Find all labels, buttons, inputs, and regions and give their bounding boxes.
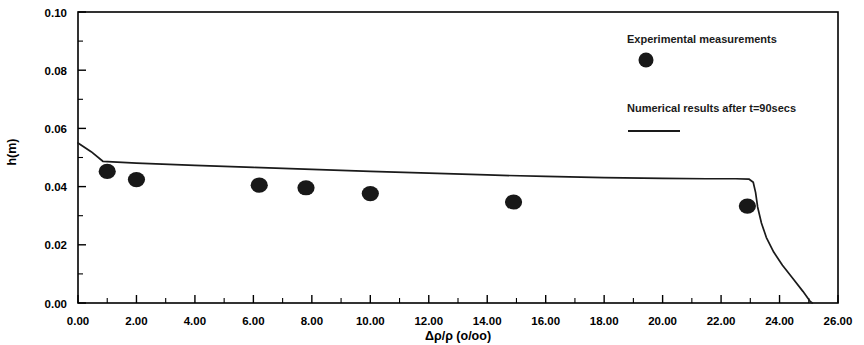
plot-frame — [78, 12, 838, 303]
y-axis-ticks — [78, 12, 86, 303]
data-point — [251, 178, 268, 193]
y-tick-label: 0.08 — [45, 65, 68, 77]
legend-label-experimental: Experimental measurements — [627, 33, 777, 45]
y-tick-label: 0.06 — [45, 123, 67, 135]
data-point — [99, 164, 116, 179]
x-tick-label: 4.00 — [184, 315, 206, 327]
y-axis-tick-labels: 0.000.020.040.060.080.10 — [45, 7, 68, 310]
x-axis-tick-labels: 0.002.004.006.008.0010.0012.0014.0016.00… — [67, 315, 853, 327]
y-tick-label: 0.00 — [45, 298, 67, 310]
x-tick-label: 2.00 — [125, 315, 147, 327]
x-axis-ticks — [78, 295, 838, 303]
experimental-measurement-points — [99, 164, 756, 214]
y-tick-label: 0.02 — [45, 239, 67, 251]
data-point — [128, 172, 145, 187]
x-tick-label: 18.00 — [590, 315, 619, 327]
x-tick-label: 0.00 — [67, 315, 89, 327]
y-tick-label: 0.10 — [45, 7, 67, 19]
x-tick-label: 16.00 — [531, 315, 560, 327]
x-tick-label: 14.00 — [473, 315, 502, 327]
legend-label-numerical: Numerical results after t=90secs — [627, 102, 796, 114]
x-tick-label: 24.00 — [765, 315, 794, 327]
chart-figure: 0.002.004.006.008.0010.0012.0014.0016.00… — [0, 0, 864, 345]
y-axis-title: h(m) — [5, 138, 19, 165]
legend-marker-filled-circle-icon — [639, 53, 654, 68]
x-tick-label: 20.00 — [648, 315, 677, 327]
scatter-line-chart: 0.002.004.006.008.0010.0012.0014.0016.00… — [0, 0, 864, 345]
data-point — [362, 186, 379, 201]
x-tick-label: 22.00 — [707, 315, 736, 327]
x-axis-title: Δρ/ρ (o/oo) — [425, 329, 491, 343]
data-point — [505, 194, 522, 209]
data-point — [739, 199, 756, 214]
x-tick-label: 8.00 — [301, 315, 323, 327]
y-tick-label: 0.04 — [45, 181, 68, 193]
chart-legend: Experimental measurements Numerical resu… — [627, 33, 796, 131]
numerical-results-curve — [78, 143, 812, 303]
data-point — [297, 180, 314, 195]
x-tick-label: 12.00 — [414, 315, 443, 327]
x-tick-label: 10.00 — [356, 315, 385, 327]
x-tick-label: 26.00 — [824, 315, 853, 327]
x-tick-label: 6.00 — [242, 315, 264, 327]
